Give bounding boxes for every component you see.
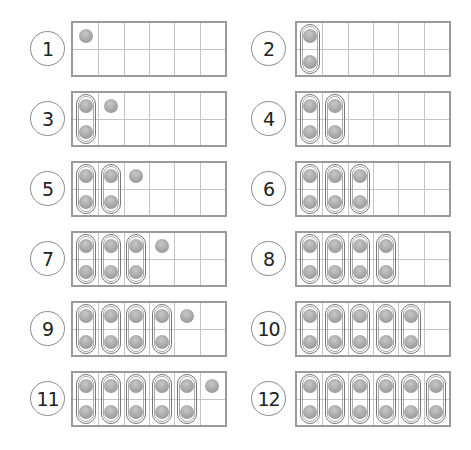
counter-dot (104, 265, 118, 279)
counter-dot (79, 335, 93, 349)
counter-dot (404, 335, 418, 349)
frame-item: 9 (30, 301, 265, 357)
frame-item: 4 (251, 91, 471, 147)
counter-dot (155, 335, 169, 349)
counter-dot (180, 309, 194, 323)
counter-dot (328, 265, 342, 279)
counter-dot (79, 379, 93, 393)
counter-dot (328, 309, 342, 323)
number-label: 7 (30, 241, 65, 276)
counter-dot (328, 195, 342, 209)
counter-dot (104, 335, 118, 349)
counter-dot (328, 335, 342, 349)
counter-dot (104, 405, 118, 419)
twelve-frame (71, 21, 227, 77)
number-label: 12 (251, 381, 286, 416)
counter-dot (303, 379, 317, 393)
counter-dot (104, 309, 118, 323)
frame-item: 1 (30, 21, 265, 77)
grid-line (73, 49, 225, 50)
frame-item: 6 (251, 161, 471, 217)
counter-dot (303, 99, 317, 113)
frame-item: 5 (30, 161, 265, 217)
frame-item: 2 (251, 21, 471, 77)
number-label: 8 (251, 241, 286, 276)
counter-dot (180, 405, 194, 419)
counter-dot (303, 265, 317, 279)
counter-dot (353, 309, 367, 323)
counter-dot (303, 309, 317, 323)
counter-dot (205, 379, 219, 393)
counter-dot (429, 405, 443, 419)
counter-dot (353, 239, 367, 253)
counter-dot (79, 405, 93, 419)
number-label: 4 (251, 101, 286, 136)
frame-item: 10 (251, 301, 471, 357)
counter-dot (303, 55, 317, 69)
counter-dot (129, 239, 143, 253)
counter-dot (155, 405, 169, 419)
counter-dot (79, 125, 93, 139)
number-label: 10 (251, 311, 286, 346)
twelve-frame (71, 371, 227, 427)
counter-dot (303, 405, 317, 419)
frame-item: 8 (251, 231, 471, 287)
counter-dot (104, 99, 118, 113)
counter-dot (303, 335, 317, 349)
counter-dot (79, 309, 93, 323)
counter-dot (379, 405, 393, 419)
counter-dot (155, 379, 169, 393)
frame-item: 3 (30, 91, 265, 147)
counter-dot (379, 239, 393, 253)
twelve-frame (71, 301, 227, 357)
counter-dot (303, 125, 317, 139)
twelve-frame (295, 231, 451, 287)
counter-dot (328, 99, 342, 113)
counter-dot (404, 405, 418, 419)
counter-dot (379, 265, 393, 279)
twelve-frame (71, 161, 227, 217)
frame-item: 12 (251, 371, 471, 427)
counter-dot (404, 379, 418, 393)
counter-dot (155, 309, 169, 323)
counter-dot (328, 405, 342, 419)
counter-dot (328, 379, 342, 393)
counter-dot (79, 239, 93, 253)
number-label: 3 (30, 101, 65, 136)
number-label: 1 (30, 31, 65, 66)
counter-dot (79, 29, 93, 43)
twelve-frame (71, 231, 227, 287)
counter-dot (155, 239, 169, 253)
counter-dot (379, 309, 393, 323)
number-label: 9 (30, 311, 65, 346)
counter-dot (379, 379, 393, 393)
number-label: 2 (251, 31, 286, 66)
counter-dot (104, 169, 118, 183)
twelve-frame (295, 301, 451, 357)
counter-dot (79, 169, 93, 183)
counter-dot (328, 169, 342, 183)
counter-dot (129, 265, 143, 279)
counter-dot (353, 265, 367, 279)
counter-dot (303, 29, 317, 43)
counter-dot (180, 379, 194, 393)
counter-dot (328, 239, 342, 253)
counter-dot (353, 405, 367, 419)
counter-dot (404, 309, 418, 323)
counter-dot (129, 379, 143, 393)
number-label: 5 (30, 171, 65, 206)
counter-dot (129, 335, 143, 349)
counter-dot (79, 99, 93, 113)
number-label: 11 (30, 381, 65, 416)
counter-dot (353, 169, 367, 183)
counter-dot (429, 379, 443, 393)
counter-dot (353, 379, 367, 393)
counter-dot (303, 169, 317, 183)
counter-dot (379, 335, 393, 349)
twelve-frame (71, 91, 227, 147)
counter-dot (129, 309, 143, 323)
counter-dot (129, 169, 143, 183)
counter-dot (303, 195, 317, 209)
twelve-frame (295, 91, 451, 147)
counter-dot (353, 195, 367, 209)
